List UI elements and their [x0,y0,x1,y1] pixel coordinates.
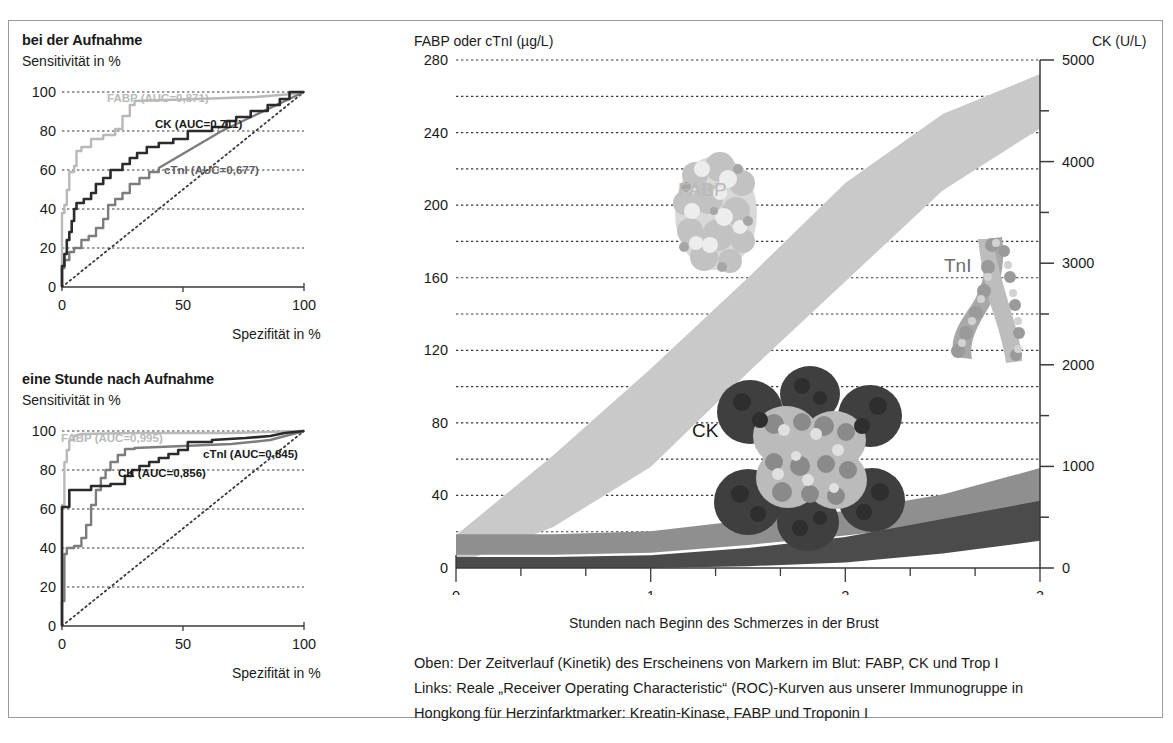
svg-text:0: 0 [48,618,56,634]
svg-text:0: 0 [58,636,66,652]
caption-line-2: Links: Reale „Receiver Operating Charact… [414,676,1144,701]
svg-text:120: 120 [424,342,448,358]
svg-text:60: 60 [40,501,56,517]
svg-text:80: 80 [40,462,56,478]
svg-text:50: 50 [175,297,191,313]
roc-top-xlabel: Spezifität in % [232,326,321,342]
fabp-protein-glyph [673,152,757,273]
svg-text:3000: 3000 [1062,255,1094,271]
kinetics-plot: 280 240 200 160 120 80 40 0 5000 4000 30… [400,50,1100,595]
roc-bottom-ctni-label: cTnI (AUC=0,845) [203,448,298,460]
svg-text:50: 50 [175,636,191,652]
kinetics-fabp-label: FABP [678,179,727,201]
svg-text:1000: 1000 [1062,458,1094,474]
svg-text:100: 100 [32,423,56,439]
roc-top-ck-label: CK (AUC=0,711) [155,118,242,130]
kinetics-ylabel-left: FABP oder cTnI (µg/L) [414,33,553,49]
roc-bottom-xlabel: Spezifität in % [232,665,321,681]
caption-line-3: Hongkong für Herzinfarktmarker: Kreatin-… [414,701,1144,726]
roc-bottom-ylabel: Sensitivität in % [22,392,121,408]
svg-text:0: 0 [58,297,66,313]
svg-text:20: 20 [40,240,56,256]
kinetics-tni-label: TnI [944,255,971,277]
svg-text:40: 40 [432,487,448,503]
kinetics-xlabel: Stunden nach Beginn des Schmerzes in der… [569,615,879,631]
figure-root: bei der Aufnahme Sensitivität in % 100 8… [0,0,1173,743]
svg-text:4000: 4000 [1062,154,1094,170]
ck-protein-glyph [714,366,905,551]
roc-bottom-fabp-label: FABP (AUC=0,995) [61,432,163,444]
roc-top-ylabel: Sensitivität in % [22,53,121,69]
kinetics-ylabel-right: CK (U/L) [1092,33,1146,49]
svg-text:2000: 2000 [1062,357,1094,373]
caption-block: Oben: Der Zeitverlauf (Kinetik) des Ersc… [414,651,1144,726]
svg-text:160: 160 [424,270,448,286]
roc-top-plot: 100 80 60 40 20 0 0 50 100 [14,70,344,320]
svg-text:100: 100 [32,84,56,100]
svg-text:80: 80 [40,123,56,139]
caption-line-1: Oben: Der Zeitverlauf (Kinetik) des Ersc… [414,651,1144,676]
kinetics-ck-label: CK [692,420,718,442]
svg-text:2: 2 [841,588,849,595]
svg-text:280: 280 [424,52,448,68]
svg-text:240: 240 [424,125,448,141]
svg-text:3: 3 [1036,588,1044,595]
roc-bottom-title: eine Stunde nach Aufnahme [22,371,214,387]
svg-text:0: 0 [440,560,448,576]
svg-text:40: 40 [40,201,56,217]
roc-top-ctni-label: cTnI (AUC=0,677) [164,164,259,176]
roc-top-title: bei der Aufnahme [22,32,142,48]
svg-text:100: 100 [292,636,316,652]
svg-text:0: 0 [48,279,56,295]
svg-text:5000: 5000 [1062,52,1094,68]
svg-text:200: 200 [424,197,448,213]
roc-bottom-ck-label: CK (AUC=0,856) [118,467,206,479]
svg-text:40: 40 [40,540,56,556]
svg-text:1: 1 [647,588,655,595]
svg-text:60: 60 [40,162,56,178]
roc-bottom-plot: 100 80 60 40 20 0 0 50 100 [14,409,344,659]
roc-top-fabp-label: FABP (AUC=0,871) [107,92,209,104]
svg-text:100: 100 [292,297,316,313]
svg-text:0: 0 [1062,560,1070,576]
svg-text:20: 20 [40,579,56,595]
svg-text:80: 80 [432,415,448,431]
svg-text:0: 0 [452,588,460,595]
